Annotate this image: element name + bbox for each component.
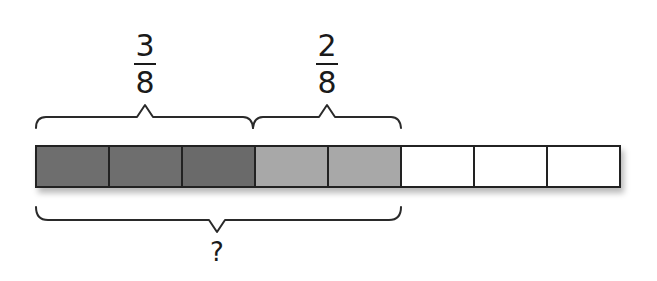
strip-cell-empty — [402, 147, 475, 186]
fraction-strip — [35, 145, 621, 188]
braces-layer — [0, 0, 657, 281]
strip-cell-shaded-dark — [37, 147, 110, 186]
strip-cell-empty — [475, 147, 548, 186]
unknown-sum-label: ? — [205, 236, 229, 268]
bottom-brace-sum — [36, 207, 401, 232]
strip-cell-shaded-dark — [110, 147, 183, 186]
top-brace-two-eighths — [253, 105, 401, 128]
top-brace-three-eighths — [36, 105, 253, 128]
strip-cell-shaded-light — [329, 147, 402, 186]
strip-cell-shaded-light — [256, 147, 329, 186]
strip-cell-empty — [548, 147, 619, 186]
strip-cell-shaded-dark — [183, 147, 256, 186]
